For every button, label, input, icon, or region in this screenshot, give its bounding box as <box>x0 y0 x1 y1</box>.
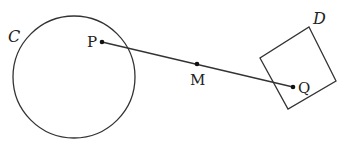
geometry-diagram: C D P M Q <box>0 0 337 141</box>
label-c: C <box>8 27 20 46</box>
point-m <box>195 62 200 67</box>
label-d: D <box>312 9 326 28</box>
label-m: M <box>190 71 205 89</box>
label-p: P <box>87 33 97 51</box>
circle-c <box>13 16 135 138</box>
point-q <box>291 85 296 90</box>
label-q: Q <box>298 79 310 97</box>
point-p <box>100 40 105 45</box>
